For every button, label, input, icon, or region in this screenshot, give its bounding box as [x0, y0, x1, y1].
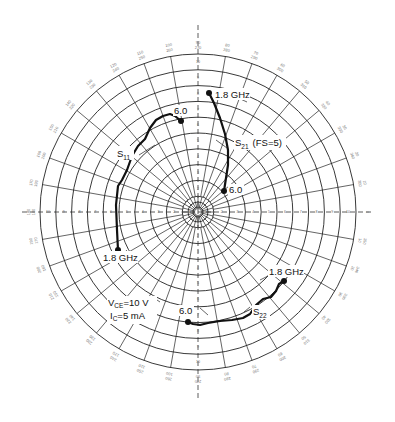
- axis-tick-label: 7: [197, 108, 199, 112]
- angle-label: 200160: [35, 264, 47, 274]
- s21-start-label: 1.8 GHz: [215, 89, 250, 100]
- grid-spoke: [171, 228, 196, 368]
- svg-text:190: 190: [33, 179, 39, 187]
- angle-label: 180180: [26, 208, 36, 215]
- axis-tick-label: 3: [237, 210, 239, 214]
- axis-tick-label: 1: [197, 202, 199, 206]
- s22-label-group: 1.8 GHz 6.0 S22: [178, 265, 304, 319]
- angle-label: 110250: [136, 49, 146, 61]
- axis-tick-label: 1: [189, 210, 191, 214]
- grid-spoke: [201, 228, 226, 368]
- angle-label: 170190: [28, 178, 39, 187]
- angle-label: 29070: [250, 363, 260, 375]
- angle-label: 100260: [165, 42, 174, 53]
- angle-label: 35010: [357, 237, 368, 246]
- s11-end-label: 6.0: [174, 105, 187, 116]
- grid-spoke: [214, 215, 354, 240]
- svg-text:180: 180: [31, 208, 36, 215]
- angle-label: 80280: [223, 42, 232, 53]
- svg-text:340: 340: [349, 152, 356, 161]
- s22-end-marker: [185, 319, 191, 325]
- angle-label: 10350: [357, 179, 368, 188]
- angle-label: 120240: [109, 61, 120, 73]
- axis-tick-label: 8: [197, 92, 199, 96]
- s22-start-label: 1.8 GHz: [269, 266, 304, 277]
- angle-label: 260100: [164, 371, 173, 382]
- axis-tick-label: 9: [197, 345, 199, 349]
- axis-tick-label: 4: [142, 210, 144, 214]
- axis-tick-label: 3: [158, 210, 160, 214]
- axis-tick-label: 10: [346, 210, 350, 214]
- vce-label: VCE=10 V: [108, 297, 149, 309]
- svg-text:350: 350: [357, 180, 363, 188]
- svg-text:290: 290: [250, 54, 259, 61]
- axis-tick-label: 9: [331, 210, 333, 214]
- axis-tick-label: 5: [197, 139, 199, 143]
- svg-text:270: 270: [195, 45, 202, 50]
- axis-tick-label: 4: [252, 210, 254, 214]
- axis-tick-label: 3: [197, 171, 199, 175]
- svg-text:160: 160: [40, 264, 47, 273]
- s11-label-group: 1.8 GHz 6.0 S11: [102, 105, 189, 263]
- s22-start-marker: [281, 278, 287, 284]
- axis-tick-label: 4: [197, 266, 199, 270]
- angle-label: 34020: [349, 264, 361, 274]
- svg-text:280: 280: [223, 47, 231, 53]
- svg-text:60: 60: [276, 351, 283, 358]
- svg-text:10: 10: [357, 238, 363, 244]
- grid-spoke: [42, 215, 182, 240]
- angle-label: 150210: [47, 122, 59, 133]
- angle-label: 70290: [250, 49, 260, 61]
- svg-text:170: 170: [33, 236, 39, 244]
- angle-label: 32040: [319, 314, 331, 326]
- s11-end-marker: [178, 118, 184, 124]
- grid-spoke: [171, 56, 196, 196]
- angle-label: 130230: [85, 78, 97, 90]
- s22-end-label: 6.0: [179, 305, 192, 316]
- svg-text:100: 100: [165, 371, 173, 377]
- svg-text:110: 110: [137, 363, 145, 370]
- svg-text:90: 90: [195, 374, 200, 379]
- angle-label: 230130: [84, 333, 96, 345]
- angle-label: 90270: [195, 40, 202, 50]
- axis-tick-label: 6: [284, 210, 286, 214]
- angle-label: 33030: [336, 290, 348, 301]
- axis-tick-label: 1: [205, 210, 207, 214]
- angle-label: 60300: [276, 61, 287, 73]
- axis-tick-label: 2: [173, 210, 175, 214]
- axis-tick-label: 9: [63, 210, 65, 214]
- axis-tick-label: 6: [197, 123, 199, 127]
- angle-label: 50310: [300, 78, 312, 90]
- bias-conditions: VCE=10 V IC=5 mA: [107, 296, 157, 324]
- angle-label: 30330: [337, 123, 349, 134]
- angle-label: 210150: [47, 289, 59, 300]
- axis-tick-label: 6: [110, 210, 112, 214]
- angle-label: 0: [365, 211, 370, 214]
- angle-label: 240120: [108, 350, 119, 362]
- axis-tick-label: 5: [197, 281, 199, 285]
- svg-text:0: 0: [365, 211, 370, 214]
- angle-label: 250110: [135, 363, 145, 375]
- axis-tick-label: 8: [316, 210, 318, 214]
- axis-tick-label: 10: [196, 60, 200, 64]
- axis-tick-label: 1: [197, 218, 199, 222]
- angle-label: 220140: [64, 313, 76, 325]
- axis-tick-label: 6: [197, 297, 199, 301]
- polar-grid: 1111222233334444555566667777888899991010…: [22, 25, 374, 400]
- axis-tick-label: 7: [300, 210, 302, 214]
- axis-tick-label: 10: [46, 210, 50, 214]
- axis-tick-label: 5: [126, 210, 128, 214]
- svg-text:200: 200: [40, 151, 47, 160]
- angle-label: 140220: [64, 98, 76, 110]
- axis-tick-label: 3: [197, 250, 199, 254]
- s21-end-label: 6.0: [229, 184, 242, 195]
- angle-label: 28080: [222, 371, 231, 382]
- angle-label: 160200: [35, 149, 47, 159]
- axis-tick-label: 9: [197, 76, 199, 80]
- polar-chart: 1111222233334444555566667777888899991010…: [0, 0, 395, 422]
- axis-tick-label: 2: [197, 234, 199, 238]
- axis-tick-label: 5: [268, 210, 270, 214]
- axis-tick-label: 8: [197, 329, 199, 333]
- axis-tick-label: 7: [94, 210, 96, 214]
- axis-tick-label: 10: [196, 360, 200, 364]
